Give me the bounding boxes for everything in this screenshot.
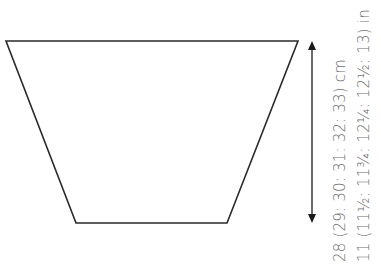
schematic-diagram <box>0 0 381 275</box>
arrowhead-down-icon <box>308 214 316 223</box>
measurement-cm-label: 28 (29: 30: 31: 32: 33) cm <box>331 59 349 262</box>
trapezoid-piece-outline <box>6 41 298 223</box>
arrowhead-up-icon <box>308 41 316 50</box>
measurement-in-label: 11 (11½: 11¾: 12¼: 12½: 13) in <box>355 9 373 262</box>
height-dimension-arrow <box>308 41 316 223</box>
